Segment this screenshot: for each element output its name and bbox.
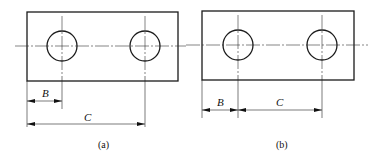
caption-a: (a) [98, 139, 109, 151]
plate-outline [27, 12, 178, 81]
dimension-label-b: B [42, 87, 49, 99]
figure-b: B C (b) [186, 11, 368, 151]
dimension-label-c: C [84, 111, 92, 123]
dimension-label-c: C [276, 96, 284, 108]
plate-outline [202, 11, 354, 80]
dimensioning-diagram: B C (a) B C (b) [0, 0, 375, 163]
dimension-label-b: B [217, 96, 224, 108]
caption-b: (b) [276, 139, 288, 151]
figure-a: B C (a) [15, 12, 186, 151]
